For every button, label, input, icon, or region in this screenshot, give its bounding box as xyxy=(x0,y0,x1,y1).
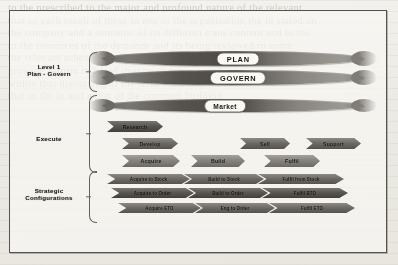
group-label-level1: Level 1 Plan - Govern xyxy=(12,63,86,78)
chevron-acquire-to-order[interactable]: Acquire to Order xyxy=(111,188,194,198)
group-label-strategic: Strategic Configurations xyxy=(12,187,86,202)
group-label-line: Plan - Govern xyxy=(12,70,86,77)
chevron-acquire-to-stock[interactable]: Acquire to Stock xyxy=(107,174,190,184)
brace-strategic xyxy=(89,171,97,223)
chevron-build[interactable]: Build xyxy=(191,155,245,167)
chevron-fulfil-bto[interactable]: Fulfil BTO xyxy=(262,188,348,198)
chevron-sell[interactable]: Sell xyxy=(240,138,290,149)
chevron-develop[interactable]: Develop xyxy=(122,138,178,149)
group-label-line: Level 1 xyxy=(12,63,86,70)
figure-frame: Level 1 Plan - Govern Execute Strategic … xyxy=(9,10,387,253)
chevron-build-to-stock[interactable]: Build to Stock xyxy=(184,174,264,184)
lens-bar-plan[interactable]: PLAN xyxy=(102,51,364,66)
chevron-fulfil[interactable]: Fulfil xyxy=(264,155,320,167)
chevron-acquire-eto[interactable]: Acquire ETO xyxy=(118,203,201,213)
chevron-support[interactable]: Support xyxy=(306,138,361,149)
lens-label-plan: PLAN xyxy=(217,52,260,65)
process-hierarchy-diagram: Level 1 Plan - Govern Execute Strategic … xyxy=(10,11,386,252)
group-label-line: Configurations xyxy=(12,194,86,201)
group-label-line: Execute xyxy=(12,135,86,142)
group-label-line: Strategic xyxy=(12,187,86,194)
lens-label-market: Market xyxy=(204,99,246,112)
lens-label-govern: GOVERN xyxy=(210,71,266,84)
chevron-build-to-order[interactable]: Build to Order xyxy=(188,188,268,198)
chevron-research[interactable]: Research xyxy=(107,121,163,132)
lens-bar-market[interactable]: Market xyxy=(102,99,364,112)
chevron-eng-to-order[interactable]: Eng to Order xyxy=(195,203,275,213)
group-label-execute: Execute xyxy=(12,135,86,142)
chevron-acquire[interactable]: Acquire xyxy=(122,155,180,167)
chevron-fulfil-eto[interactable]: Fulfil ETO xyxy=(269,203,355,213)
chevron-fulfil-from-stock[interactable]: Fulfil from Stock xyxy=(258,174,344,184)
lens-bar-govern[interactable]: GOVERN xyxy=(102,70,364,85)
